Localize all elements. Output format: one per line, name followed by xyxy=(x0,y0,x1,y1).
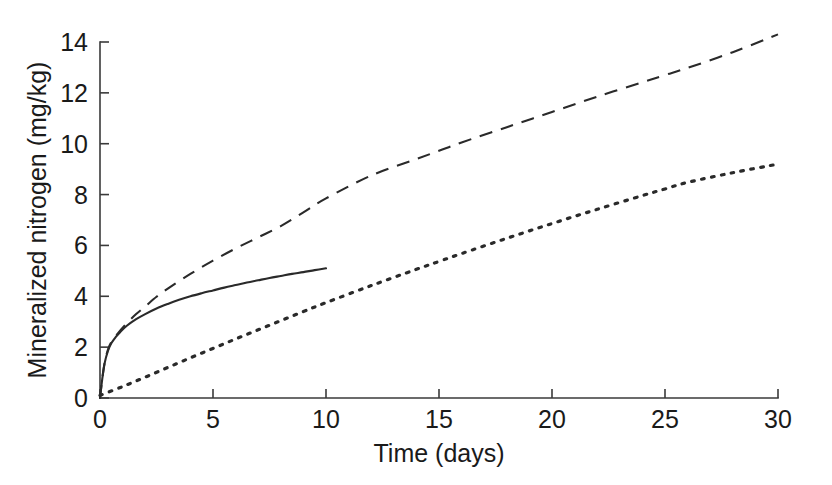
x-tick-label: 25 xyxy=(651,405,679,433)
y-tick-label: 12 xyxy=(60,79,88,107)
x-tick-label: 15 xyxy=(425,405,453,433)
chart-figure: 051015202530 02468101214 Time (days) Min… xyxy=(0,0,832,485)
y-tick-label: 10 xyxy=(60,130,88,158)
y-axis-ticks xyxy=(100,42,109,398)
series-dashed xyxy=(100,34,778,398)
x-tick-label: 0 xyxy=(93,405,107,433)
y-tick-label: 14 xyxy=(60,28,88,56)
y-axis-tick-labels: 02468101214 xyxy=(60,28,88,412)
x-tick-label: 5 xyxy=(206,405,220,433)
y-tick-label: 0 xyxy=(74,384,88,412)
y-tick-label: 2 xyxy=(74,333,88,361)
series-solid xyxy=(100,268,326,398)
series-dotted xyxy=(100,164,778,395)
x-axis-ticks xyxy=(100,389,778,398)
y-tick-label: 6 xyxy=(74,231,88,259)
x-axis-title: Time (days) xyxy=(373,439,504,467)
y-axis-title: Mineralized nitrogen (mg/kg) xyxy=(23,62,51,379)
x-tick-label: 30 xyxy=(764,405,792,433)
x-axis-tick-labels: 051015202530 xyxy=(93,405,792,433)
x-tick-label: 20 xyxy=(538,405,566,433)
chart-canvas: 051015202530 02468101214 Time (days) Min… xyxy=(0,0,832,485)
data-series-group xyxy=(100,34,778,398)
y-tick-label: 8 xyxy=(74,181,88,209)
y-tick-label: 4 xyxy=(74,282,88,310)
x-tick-label: 10 xyxy=(312,405,340,433)
